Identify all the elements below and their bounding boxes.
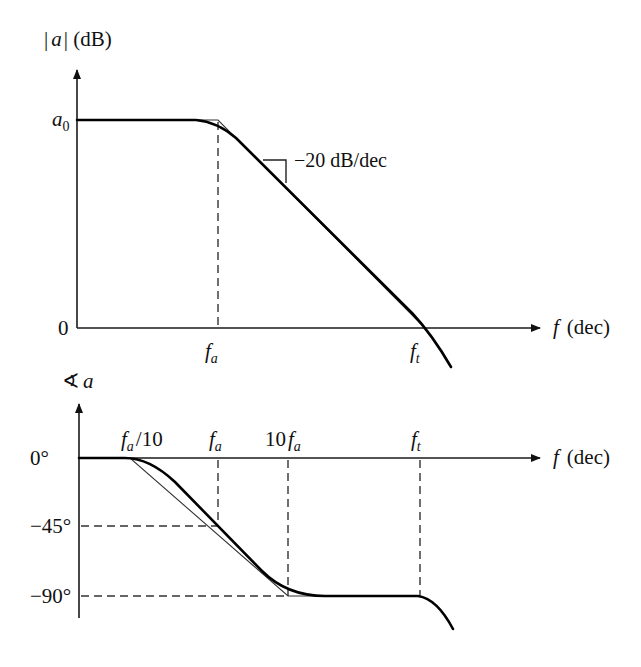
magnitude-x-label: f(dec) [553, 315, 610, 339]
tick-label-minus90deg: −90° [30, 584, 71, 608]
tick-label-a0: a0 [52, 107, 70, 134]
tick-label-0deg: 0° [30, 446, 49, 470]
magnitude-curve [77, 120, 451, 367]
tick-label-ft-phase: ft [411, 427, 422, 454]
tick-label-ft: ft [410, 339, 421, 366]
tick-label-minus45deg: −45° [30, 514, 71, 538]
phase-y-label: ∢a [62, 369, 94, 393]
angle-icon: ∢ [62, 369, 80, 393]
phase-x-label: f(dec) [553, 445, 610, 469]
magnitude-plot: |a| (dB) f(dec) a0 0 fa ft −20 dB/dec [44, 27, 610, 367]
phase-asymptote [79, 458, 420, 596]
phase-plot: ∢a f(dec) 0° −45° −90° fa/10 fa 10fa ft [30, 369, 610, 629]
tick-label-fa-over-10: fa/10 [121, 427, 163, 454]
tick-label-zero-db: 0 [58, 316, 69, 340]
slope-annotation: −20 dB/dec [294, 149, 387, 171]
slope-triangle [263, 160, 286, 183]
phase-curve [79, 458, 453, 629]
magnitude-y-label: |a| (dB) [44, 27, 112, 51]
tick-label-10fa: 10fa [265, 427, 301, 454]
tick-label-fa: fa [205, 339, 218, 366]
bode-plot-diagram: |a| (dB) f(dec) a0 0 fa ft −20 dB/dec ∢a… [0, 0, 641, 667]
tick-label-fa-phase: fa [209, 427, 222, 454]
